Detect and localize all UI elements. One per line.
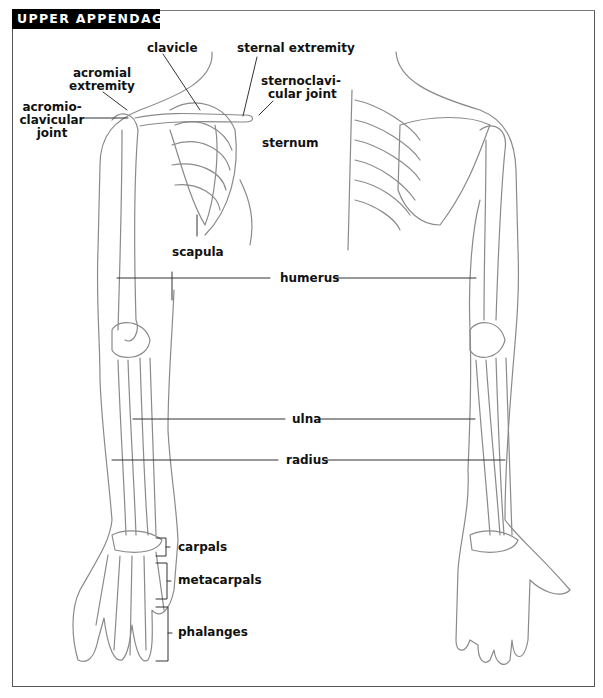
label-sternoclavicular-line2: cular joint [268,88,337,101]
label-phalanges: phalanges [178,626,248,639]
label-carpals: carpals [178,541,227,554]
label-acromioclavicular-line3: joint [17,127,87,140]
label-sternal-extremity: sternal extremity [237,42,355,55]
front-arm-illustration [73,52,253,661]
label-scapula: scapula [172,246,224,259]
label-radius: radius [286,454,328,467]
skeleton-illustration [0,0,603,698]
label-clavicle: clavicle [147,42,198,55]
label-acromial-extremity-line2: extremity [62,80,142,93]
label-ulna: ulna [292,413,321,426]
back-arm-illustration [348,52,570,664]
label-humerus: humerus [280,272,339,285]
label-metacarpals: metacarpals [178,574,262,587]
label-sternum: sternum [262,137,319,150]
